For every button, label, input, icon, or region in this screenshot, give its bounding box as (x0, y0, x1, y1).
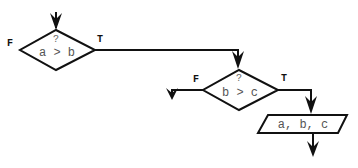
entry-arrow (50, 12, 62, 30)
output-parallelogram: a, b, c (258, 115, 347, 133)
output-text: a, b, c (278, 118, 328, 132)
false-label: F (193, 74, 199, 85)
true-label: T (281, 73, 287, 84)
true-label: T (97, 34, 103, 45)
condition-text: a > b (39, 46, 75, 60)
false-label: F (7, 38, 13, 49)
true-branch-connector (95, 50, 244, 69)
question-mark: ? (53, 34, 59, 45)
decision-b-gt-c: ? b > c (203, 70, 278, 110)
condition-text: b > c (222, 86, 258, 100)
false-branch-connector (166, 88, 203, 100)
decision-a-gt-b: ? a > b (20, 30, 95, 70)
exit-arrow (307, 133, 319, 157)
true-branch-to-output (278, 90, 317, 114)
flowchart: ? a > b F T ? b > c F T a, b, c (0, 0, 358, 168)
question-mark: ? (236, 73, 242, 84)
